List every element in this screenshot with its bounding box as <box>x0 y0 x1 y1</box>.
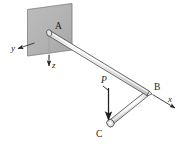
label-point-c: C <box>96 130 102 140</box>
label-point-b: B <box>154 83 160 93</box>
label-axis-x: x <box>168 95 172 104</box>
figure-canvas: A B C y z x P <box>0 0 185 148</box>
label-point-a: A <box>55 22 62 32</box>
label-axis-y: y <box>11 44 15 53</box>
diagram-svg <box>0 0 185 148</box>
pipe-segment-bc <box>109 92 149 125</box>
pipe-segment-ab <box>48 31 150 96</box>
label-axis-z: z <box>52 61 56 70</box>
label-force-p: P <box>101 76 107 86</box>
force-arrow-p <box>103 86 109 120</box>
